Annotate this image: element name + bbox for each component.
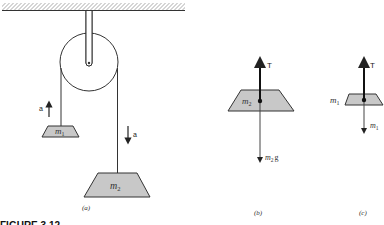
- svg-text:T: T: [267, 61, 272, 70]
- pulley-axle: [88, 62, 90, 64]
- svg-text:a: a: [39, 105, 43, 112]
- panel-a: m1 m2 a a (a): [2, 3, 185, 212]
- svg-text:a: a: [133, 131, 137, 138]
- svg-text:m1: m1: [370, 121, 379, 131]
- mass-m2-block: m2: [84, 173, 150, 197]
- center-of-mass-dot: [362, 98, 366, 102]
- panel-c-label: (c): [359, 209, 367, 217]
- figure-caption: FIGURE 3.12: [0, 220, 60, 225]
- center-of-mass-dot: [258, 99, 262, 103]
- svg-text:m1: m1: [330, 95, 340, 106]
- svg-text:m2g: m2g: [265, 153, 279, 163]
- atwood-machine-figure: m1 m2 a a (a) T m2 m2g (b) T: [0, 0, 384, 225]
- panel-b-label: (b): [254, 209, 263, 217]
- panel-a-label: (a): [82, 204, 91, 212]
- mass-m1-block: m1: [42, 126, 79, 137]
- panel-c: T m1 m1 (c): [330, 61, 383, 217]
- ceiling: [2, 3, 185, 11]
- svg-text:T: T: [370, 61, 375, 70]
- panel-b: T m2 m2g (b): [228, 61, 294, 217]
- accel-arrow-up-icon: a: [39, 104, 49, 117]
- accel-arrow-down-icon: a: [128, 126, 137, 141]
